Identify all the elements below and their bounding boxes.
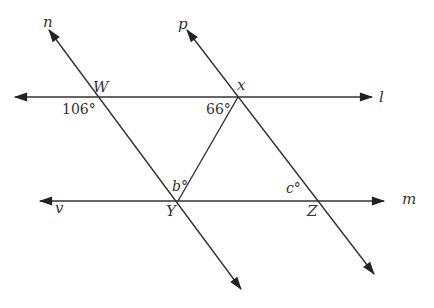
line-p (187, 30, 374, 274)
label-m: m (402, 190, 416, 208)
angle-Y-b: b° (172, 178, 188, 194)
angle-W-106: 106° (62, 101, 96, 117)
label-l: l (379, 88, 384, 106)
label-point-Z: Z (306, 202, 318, 220)
angle-x-66: 66° (206, 101, 231, 117)
geometry-diagram: n p l m v W x Y Z 106° 66° b° c° (0, 0, 434, 308)
diagram-svg: n p l m v W x Y Z 106° 66° b° c° (0, 0, 434, 308)
label-p: p (178, 15, 188, 33)
line-n (49, 30, 241, 289)
angle-Z-c: c° (286, 180, 301, 196)
label-n: n (43, 13, 53, 31)
label-point-Y: Y (166, 202, 178, 220)
label-v: v (55, 199, 64, 217)
label-point-W: W (93, 78, 110, 96)
label-point-x: x (237, 76, 246, 94)
